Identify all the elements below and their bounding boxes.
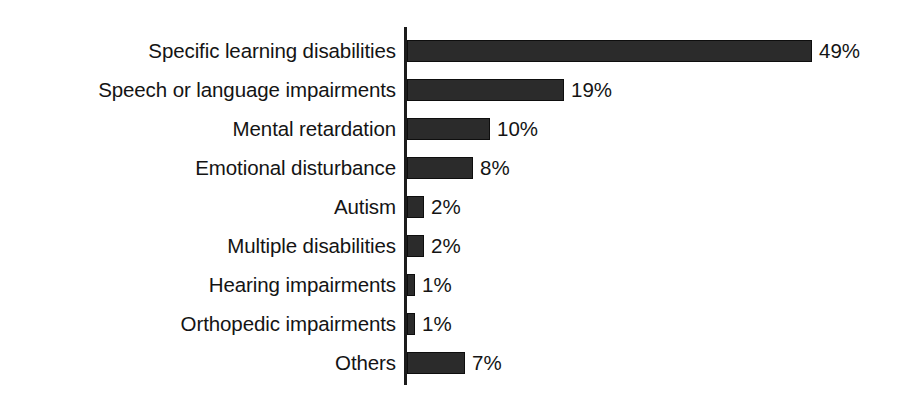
category-label: Orthopedic impairments <box>0 313 396 335</box>
chart-row: Speech or language impairments19% <box>0 70 912 109</box>
category-label: Specific learning disabilities <box>0 40 396 62</box>
bar-value-label: 1% <box>422 274 452 296</box>
chart-plot-area: Specific learning disabilities49%Speech … <box>0 31 912 382</box>
category-label: Hearing impairments <box>0 274 396 296</box>
bar <box>407 118 490 140</box>
category-label: Multiple disabilities <box>0 235 396 257</box>
bar-group: 8% <box>407 148 510 187</box>
bar-group: 49% <box>407 31 860 70</box>
bar-group: 2% <box>407 187 461 226</box>
category-label: Emotional disturbance <box>0 157 396 179</box>
bar-value-label: 7% <box>472 352 502 374</box>
bar-group: 1% <box>407 304 452 343</box>
bar-value-label: 2% <box>431 235 461 257</box>
chart-row: Multiple disabilities2% <box>0 226 912 265</box>
bar-group: 7% <box>407 343 502 382</box>
bar-value-label: 19% <box>571 79 612 101</box>
bar <box>407 157 473 179</box>
chart-row: Others7% <box>0 343 912 382</box>
bar-group: 19% <box>407 70 612 109</box>
bar <box>407 40 812 62</box>
bar <box>407 313 415 335</box>
bar-group: 10% <box>407 109 538 148</box>
bar <box>407 79 564 101</box>
bar-value-label: 49% <box>819 40 860 62</box>
horizontal-bar-chart: Specific learning disabilities49%Speech … <box>0 0 912 416</box>
bar <box>407 235 424 257</box>
bar-value-label: 10% <box>497 118 538 140</box>
bar <box>407 274 415 296</box>
bar <box>407 352 465 374</box>
chart-row: Specific learning disabilities49% <box>0 31 912 70</box>
bar-value-label: 8% <box>480 157 510 179</box>
bar-group: 1% <box>407 265 452 304</box>
bar-value-label: 1% <box>422 313 452 335</box>
chart-row: Mental retardation10% <box>0 109 912 148</box>
category-label: Speech or language impairments <box>0 79 396 101</box>
bar <box>407 196 424 218</box>
chart-row: Orthopedic impairments1% <box>0 304 912 343</box>
category-label: Autism <box>0 196 396 218</box>
chart-row: Hearing impairments1% <box>0 265 912 304</box>
bar-value-label: 2% <box>431 196 461 218</box>
bar-group: 2% <box>407 226 461 265</box>
chart-row: Autism2% <box>0 187 912 226</box>
category-label: Others <box>0 352 396 374</box>
chart-row: Emotional disturbance8% <box>0 148 912 187</box>
category-label: Mental retardation <box>0 118 396 140</box>
